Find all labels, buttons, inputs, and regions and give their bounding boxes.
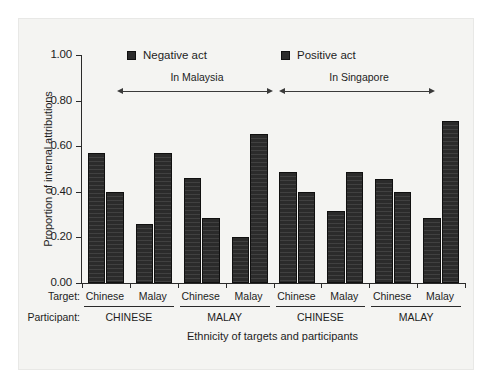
bar xyxy=(442,121,460,283)
axis-target-label: Malay xyxy=(320,290,368,302)
y-axis-tick: 0.40 xyxy=(76,192,82,193)
bar xyxy=(154,153,172,283)
axis-group-underline xyxy=(180,306,270,307)
axis-target-label: Malay xyxy=(225,290,273,302)
bar xyxy=(298,192,316,283)
axis-target-label: Malay xyxy=(129,290,177,302)
y-axis-tick-label: 0.60 xyxy=(50,139,72,151)
axis-participant-label: MALAY xyxy=(180,311,270,323)
axis-group-underline xyxy=(84,306,174,307)
axis-participant-label: CHINESE xyxy=(276,311,366,323)
x-axis-tick xyxy=(321,283,322,288)
y-axis-tick-label: 0.00 xyxy=(50,276,72,288)
bar xyxy=(232,237,250,283)
bar xyxy=(375,179,393,283)
axis-target-label: Chinese xyxy=(368,290,416,302)
x-axis-tick xyxy=(369,283,370,288)
y-axis-tick: 0.60 xyxy=(76,146,82,147)
x-axis-tick xyxy=(178,283,179,288)
bar xyxy=(106,192,124,283)
x-axis-tick xyxy=(226,283,227,288)
bar xyxy=(423,218,441,283)
y-axis-tick-label: 0.20 xyxy=(50,230,72,242)
x-axis-tick xyxy=(417,283,418,288)
x-axis-title: Ethnicity of targets and participants xyxy=(81,330,464,342)
axis-group-underline xyxy=(371,306,461,307)
axis-target-label: Chinese xyxy=(273,290,321,302)
x-axis-tick xyxy=(465,283,466,288)
x-axis-tick xyxy=(274,283,275,288)
bar xyxy=(279,172,297,283)
y-axis-title: Proportion of internal attributions xyxy=(42,55,56,283)
axis-target-label: Chinese xyxy=(81,290,129,302)
x-axis-tick xyxy=(82,283,83,288)
bar xyxy=(250,134,268,283)
axis-row-title-target: Target: xyxy=(28,290,80,302)
bar xyxy=(327,211,345,283)
bar xyxy=(346,172,364,283)
bar xyxy=(88,153,106,283)
y-axis-tick: 1.00 xyxy=(76,55,82,56)
axis-target-label: Malay xyxy=(416,290,464,302)
axis-participant-label: CHINESE xyxy=(84,311,174,323)
y-axis-tick-label: 0.80 xyxy=(50,94,72,106)
y-axis-tick-label: 0.40 xyxy=(50,185,72,197)
figure-panel: Proportion of internal attributions Ethn… xyxy=(18,18,474,370)
axis-participant-label: MALAY xyxy=(371,311,461,323)
y-axis-tick-label: 1.00 xyxy=(50,48,72,60)
y-axis-tick: 0.80 xyxy=(76,101,82,102)
axis-group-underline xyxy=(276,306,366,307)
bar xyxy=(202,218,220,283)
axis-row-title-participant: Participant: xyxy=(18,311,80,323)
plot-area: 0.000.200.400.600.801.00 xyxy=(81,55,465,284)
bar xyxy=(184,178,202,283)
bar xyxy=(394,192,412,283)
y-axis-tick: 0.20 xyxy=(76,237,82,238)
axis-target-label: Chinese xyxy=(177,290,225,302)
bar xyxy=(136,224,154,283)
x-axis-tick xyxy=(130,283,131,288)
